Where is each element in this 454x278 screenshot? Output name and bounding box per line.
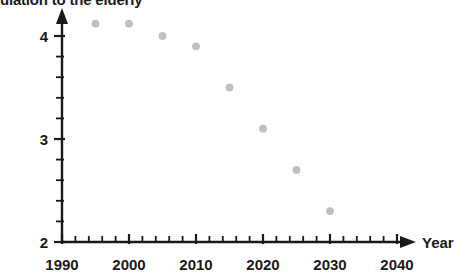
x-tick-label: 1990 <box>45 256 78 273</box>
y-axis-ticks <box>54 36 65 242</box>
y-axis-arrow <box>56 8 68 24</box>
data-point <box>259 125 267 133</box>
chart-container: ulation to the elderly 19902000201020202… <box>0 0 454 278</box>
scatter-plot-svg: 199020002010202020302040 234 Year <box>0 0 454 278</box>
x-tick-label: 2030 <box>313 256 346 273</box>
data-point <box>159 32 167 40</box>
x-axis-arrow <box>400 236 416 248</box>
data-point <box>192 42 200 50</box>
y-tick-label: 2 <box>40 234 48 251</box>
y-axis-tick-labels: 234 <box>40 28 49 251</box>
data-point <box>326 207 334 215</box>
x-tick-label: 2040 <box>380 256 413 273</box>
x-axis-label: Year <box>422 234 454 251</box>
axes-group <box>56 8 416 248</box>
y-tick-label: 3 <box>40 131 48 148</box>
x-tick-label: 2020 <box>246 256 279 273</box>
data-point <box>92 20 100 28</box>
x-tick-label: 2010 <box>179 256 212 273</box>
data-point <box>226 84 234 92</box>
x-axis-tick-labels: 199020002010202020302040 <box>45 256 413 273</box>
x-tick-label: 2000 <box>112 256 145 273</box>
x-axis-title: Year <box>422 234 454 251</box>
data-point <box>293 166 301 174</box>
data-points <box>92 20 334 215</box>
y-tick-label: 4 <box>40 28 49 45</box>
data-point <box>125 20 133 28</box>
